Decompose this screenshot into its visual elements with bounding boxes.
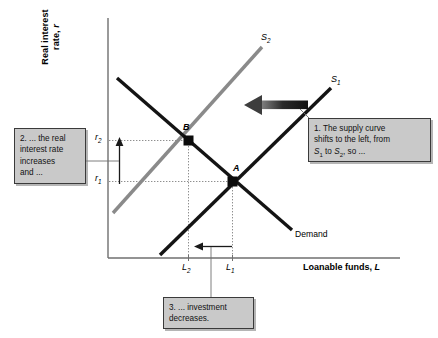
tick-label-r1: r1 [95, 173, 102, 185]
tick-label-l1-subscript: 1 [231, 267, 235, 274]
callout-supply-shift: 1. The supply curve shifts to the left, … [308, 118, 431, 162]
loanable-funds-diagram: Real interest rate, r Loanable funds, L … [0, 0, 438, 338]
point-label-a: A [233, 163, 240, 173]
y-axis-title-line1: Real interest [40, 0, 51, 97]
supply-shift-arrow [244, 95, 308, 115]
tick-label-r2: r2 [95, 132, 102, 144]
tick-label-r2-subscript: 2 [98, 137, 102, 144]
callout-1-line2: shifts to the left, from [314, 134, 425, 145]
callout-2-line3: increases [20, 156, 80, 167]
callout-1-line3: S1 to S2, so ... [314, 146, 425, 159]
callout-2-line4: and ... [20, 167, 80, 178]
curve-label-s2: S2 [261, 32, 271, 44]
investment-decrease-arrow [194, 243, 232, 251]
equilibrium-marker-a [228, 177, 238, 187]
interest-rate-increase-arrow [116, 137, 124, 184]
callout-1-to: to [323, 147, 334, 156]
curve-label-s2-subscript: 2 [267, 37, 271, 44]
tick-label-r1-subscript: 1 [98, 178, 102, 185]
callout-1-tail: , so ... [343, 147, 365, 156]
tick-label-l2: L2 [182, 262, 191, 274]
y-axis-title-line2: rate, r [51, 0, 62, 97]
y-axis-title: Real interest rate, r [40, 0, 70, 97]
y-axis-title-line2-text: rate, [51, 28, 61, 50]
curve-label-demand: Demand [295, 229, 327, 239]
callout-3-line1: 3. ... investment [169, 302, 248, 313]
x-axis-title-text: Loanable funds, [303, 262, 375, 272]
equilibrium-marker-b [184, 136, 194, 146]
callout-interest-rate: 2. ... the real interest rate increases … [14, 128, 86, 184]
tick-label-l2-subscript: 2 [187, 267, 191, 274]
callout-3-line2: decreases. [169, 313, 248, 324]
point-label-b: B [183, 122, 190, 132]
x-axis-title: Loanable funds, L [303, 262, 380, 272]
x-axis-variable: L [375, 262, 381, 272]
y-axis-variable: r [51, 24, 61, 28]
curve-label-s1: S1 [331, 74, 341, 86]
callout-2-line2: interest rate [20, 144, 80, 155]
curve-label-s1-subscript: 1 [337, 79, 341, 86]
callout-investment: 3. ... investment decreases. [163, 297, 254, 329]
callout-2-line1: 2. ... the real [20, 133, 80, 144]
callout-1-line1: 1. The supply curve [314, 123, 425, 134]
tick-label-l1: L1 [226, 262, 235, 274]
